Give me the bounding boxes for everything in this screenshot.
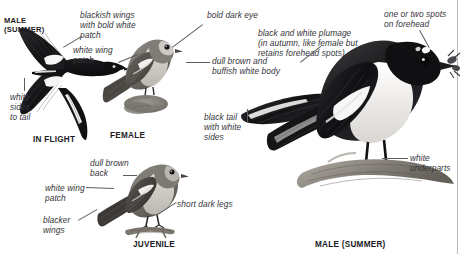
leader-dull-brown-back xyxy=(123,175,137,176)
leader-blacker-wings xyxy=(78,209,98,221)
leader-black-tail-white-sides xyxy=(247,109,248,123)
annotation-white-sides-to-tail: white sides to tail xyxy=(10,92,30,123)
annotation-bold-dark-eye: bold dark eye xyxy=(207,10,258,20)
annotation-forehead-spots: one or two spots on forehead xyxy=(384,9,446,29)
annotation-white-underparts: white underparts xyxy=(410,153,451,173)
annotation-blacker-wings: blacker wings xyxy=(43,215,70,235)
annotation-white-wing-patch-female: white wing patch xyxy=(73,45,113,65)
caption-male-summer: MALE (SUMMER) xyxy=(315,240,386,250)
annotation-black-and-white-plumage: black and white plumage (in autumn, like… xyxy=(258,28,358,59)
leader-white-sides-to-tail xyxy=(24,78,25,91)
caption-female: FEMALE xyxy=(110,131,145,141)
caption-juvenile: JUVENILE xyxy=(133,240,175,250)
bird-plate-page: IN FLIGHT MALE (SUMMER) blackish wings w… xyxy=(0,0,461,254)
caption-in-flight: IN FLIGHT xyxy=(33,135,75,145)
leader-dull-brown-buffish xyxy=(186,62,210,63)
bird-female xyxy=(98,22,184,126)
leader-white-underparts xyxy=(382,158,408,159)
annotation-black-tail-white-sides: black tail with white sides xyxy=(204,112,241,143)
annotation-short-dark-legs: short dark legs xyxy=(177,199,233,209)
annotation-white-wing-patch-juvenile: white wing patch xyxy=(45,183,85,203)
annotation-male-summer-corner: MALE (SUMMER) xyxy=(4,16,44,34)
